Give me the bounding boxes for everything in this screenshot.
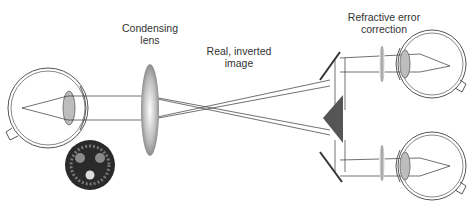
correction-label: Refractive error correction xyxy=(336,11,432,35)
upper-correction-lens-icon xyxy=(379,46,385,82)
label-line: correction xyxy=(336,23,432,35)
label-line: Real, inverted xyxy=(200,45,278,57)
label-line: Condensing xyxy=(118,22,182,34)
lower-examiner-eye-icon xyxy=(396,132,466,200)
upper-examiner-eye-icon xyxy=(396,30,466,98)
prism-icon xyxy=(323,95,343,143)
condensing-lens-label: Condensing lens xyxy=(118,22,182,46)
label-line: lens xyxy=(118,34,182,46)
upper-mirror-icon xyxy=(320,52,340,80)
patient-eye-icon xyxy=(6,68,88,148)
fundus-image-icon xyxy=(65,140,115,190)
label-line: image xyxy=(200,57,278,69)
condensing-lens-icon xyxy=(141,64,159,156)
lower-correction-lens-icon xyxy=(379,145,385,181)
lower-mirror-icon xyxy=(320,152,342,182)
binocular-indirect-ophthalmoscope-diagram: Condensing lens Real, inverted image Ref… xyxy=(0,0,470,207)
image-label: Real, inverted image xyxy=(200,45,278,69)
label-line: Refractive error xyxy=(336,11,432,23)
